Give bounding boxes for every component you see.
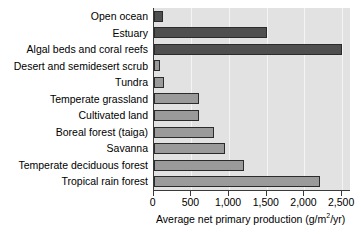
bar <box>154 110 199 121</box>
axis-tick-label: 1,000 <box>215 196 241 208</box>
bar <box>154 93 199 104</box>
bar-row <box>154 107 350 124</box>
axis-tick <box>303 191 304 196</box>
axis-tick <box>153 191 154 196</box>
axis-tick <box>190 191 191 196</box>
category-label: Algal beds and coral reefs <box>0 41 152 58</box>
axis-tick-label: 500 <box>182 196 200 208</box>
bar-row <box>154 157 350 174</box>
axis-tick <box>266 191 267 196</box>
bar <box>154 127 214 138</box>
bar <box>154 44 342 55</box>
bar-row <box>154 8 350 25</box>
bar-row <box>154 140 350 157</box>
bar <box>154 176 320 187</box>
category-label: Cultivated land <box>0 107 152 124</box>
axis-tick-label: 2,000 <box>290 196 316 208</box>
axis-tick-label: 0 <box>150 196 156 208</box>
axis-tick-label: 2,500 <box>328 196 354 208</box>
x-axis-title: Average net primary production (g/m2/yr) <box>153 212 349 225</box>
bar-chart: Open ocean Estuary Algal beds and coral … <box>0 0 361 235</box>
category-label: Desert and semidesert scrub <box>0 58 152 75</box>
category-label: Savanna <box>0 140 152 157</box>
bar <box>154 77 165 88</box>
axis-tick <box>341 191 342 196</box>
category-axis: Open ocean Estuary Algal beds and coral … <box>0 8 152 190</box>
category-label: Open ocean <box>0 8 152 25</box>
category-label: Temperate deciduous forest <box>0 157 152 174</box>
category-label: Tundra <box>0 74 152 91</box>
bar <box>154 27 267 38</box>
axis-tick-label: 1,500 <box>253 196 279 208</box>
category-label: Boreal forest (taiga) <box>0 124 152 141</box>
bar <box>154 11 163 22</box>
bar <box>154 60 161 71</box>
plot-area <box>153 8 350 191</box>
bar-row <box>154 124 350 141</box>
bar-row <box>154 58 350 75</box>
bar-row <box>154 41 350 58</box>
bar <box>154 160 244 171</box>
bar-row <box>154 173 350 190</box>
category-label: Tropical rain forest <box>0 173 152 190</box>
x-axis-tick-labels: 05001,0001,5002,0002,500 <box>0 196 361 210</box>
bar-series <box>154 8 350 190</box>
bar-row <box>154 74 350 91</box>
bar-row <box>154 91 350 108</box>
category-label: Estuary <box>0 25 152 42</box>
bar-row <box>154 25 350 42</box>
axis-tick <box>228 191 229 196</box>
bar <box>154 143 226 154</box>
category-label: Temperate grassland <box>0 91 152 108</box>
